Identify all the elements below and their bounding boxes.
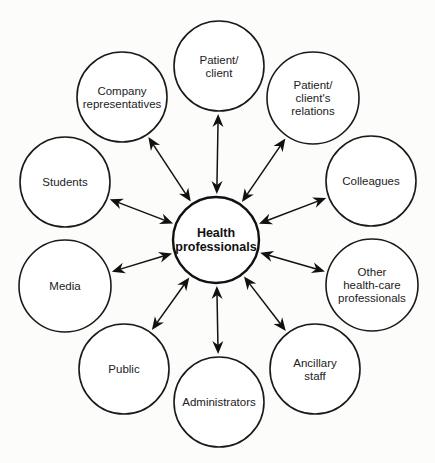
node-ancillary-staff: Ancillarystaff bbox=[270, 324, 360, 414]
arrow-shaft bbox=[120, 256, 165, 270]
node-label-line: health-care bbox=[343, 279, 401, 291]
node-media: Media bbox=[19, 240, 111, 332]
arrowhead-icon bbox=[273, 317, 285, 331]
node-label-line: Patient/ bbox=[200, 54, 240, 66]
node-label-line: Media bbox=[49, 280, 81, 292]
node-label-line: professionals bbox=[338, 292, 406, 304]
arrow-other-health-care-professionals bbox=[260, 251, 325, 273]
arrow-shaft bbox=[249, 283, 281, 325]
node-label-line: Public bbox=[108, 363, 140, 375]
arrowhead-icon bbox=[148, 137, 160, 151]
node-administrators: Administrators bbox=[174, 357, 264, 447]
node-label-line: representatives bbox=[83, 98, 162, 110]
arrow-shaft bbox=[157, 284, 185, 323]
arrow-public bbox=[152, 277, 189, 329]
arrow-patient-clients-relations bbox=[242, 138, 285, 202]
node-label-line: Administrators bbox=[182, 396, 256, 408]
node-label-line: Colleagues bbox=[342, 175, 400, 187]
node-label-line: client bbox=[206, 67, 234, 79]
node-label-line: Ancillary bbox=[293, 357, 337, 369]
node-colleagues: Colleagues bbox=[326, 136, 416, 226]
node-students: Students bbox=[20, 137, 110, 227]
arrow-students bbox=[110, 199, 173, 224]
arrow-shaft bbox=[117, 202, 165, 221]
node-public: Public bbox=[79, 324, 169, 414]
hub-layer: Healthprofessionals bbox=[173, 197, 259, 283]
stakeholder-diagram: Patient/clientPatient/client'srelationsC… bbox=[0, 0, 435, 463]
node-label-line: Company bbox=[97, 85, 146, 97]
arrow-colleagues bbox=[259, 198, 326, 225]
arrow-ancillary-staff bbox=[244, 276, 286, 330]
arrow-shaft bbox=[217, 294, 218, 346]
node-label-line: relations bbox=[291, 105, 335, 117]
node-label-line: Students bbox=[42, 176, 88, 188]
arrowhead-icon bbox=[244, 276, 256, 290]
node-patient-client: Patient/client bbox=[174, 21, 264, 111]
node-label-line: Other bbox=[358, 266, 387, 278]
hub-health-professionals: Healthprofessionals bbox=[173, 197, 259, 283]
arrow-administrators bbox=[212, 286, 224, 354]
arrowhead-icon bbox=[242, 188, 254, 202]
node-label-line: Health bbox=[197, 226, 235, 240]
node-label-line: Patient/ bbox=[294, 79, 334, 91]
arrow-media bbox=[112, 252, 172, 273]
arrowhead-icon bbox=[177, 277, 189, 291]
node-label-line: client's bbox=[296, 92, 331, 104]
node-label-line: professionals bbox=[175, 240, 256, 254]
node-company-representatives: Companyrepresentatives bbox=[77, 52, 167, 142]
arrow-shaft bbox=[246, 145, 280, 195]
node-other-health-care-professionals: Otherhealth-careprofessionals bbox=[326, 239, 418, 331]
node-label-line: staff bbox=[304, 370, 326, 382]
arrow-company-representatives bbox=[148, 137, 190, 201]
arrow-shaft bbox=[268, 255, 317, 269]
arrowhead-icon bbox=[179, 188, 191, 202]
arrow-patient-client bbox=[212, 114, 224, 194]
arrow-shaft bbox=[153, 144, 187, 195]
node-patient-clients-relations: Patient/client'srelations bbox=[267, 52, 359, 144]
arrow-shaft bbox=[217, 122, 218, 186]
arrowhead-icon bbox=[152, 316, 164, 330]
arrow-shaft bbox=[266, 201, 318, 221]
arrowhead-icon bbox=[273, 138, 285, 152]
